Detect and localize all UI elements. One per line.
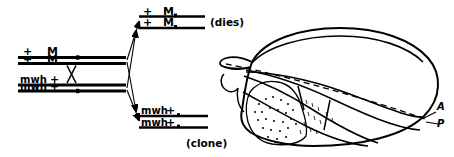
daughter-clone: mwh + mwh + (clone) (139, 104, 227, 149)
daughter-marker-label: M (163, 16, 174, 29)
arrow-to-clone (127, 62, 136, 111)
centromere-dot (76, 89, 79, 93)
segregation-arrows (127, 22, 139, 120)
vein-L4 (244, 76, 378, 143)
crossover-x-symbol (67, 66, 76, 84)
centromere-dot (177, 113, 180, 117)
centromere-dot (76, 55, 79, 59)
centromere-dot (174, 25, 177, 29)
parent-marker-label: mwh (20, 81, 47, 92)
figure-canvas: + M + M mwh + mwh + (0, 0, 454, 157)
fate-label-clone: (clone) (186, 137, 227, 149)
genetics-wing-figure: + M + M mwh + mwh + (0, 0, 454, 157)
daughter-marker-label: + (166, 116, 175, 129)
drosophila-wing: A P (220, 28, 445, 146)
fate-label-dies: (dies) (210, 16, 244, 28)
daughter-dies: + M + M (dies) (139, 5, 244, 30)
daughter-marker-label: + (143, 16, 152, 29)
wing-base-notch (221, 74, 238, 92)
daughter-marker-label: mwh (141, 117, 168, 128)
parent-marker-label: + (50, 80, 59, 93)
label-posterior: P (437, 118, 445, 129)
clone-region-outline (246, 81, 306, 144)
M-bearing-homolog (18, 55, 126, 63)
arrow-to-dies (127, 22, 139, 60)
parent-marker-label: M (47, 53, 58, 66)
centromere-dot (177, 125, 180, 129)
daughter-marker-label: mwh (141, 105, 168, 116)
arrow-to-dies (127, 31, 136, 88)
label-anterior: A (436, 101, 445, 112)
parent-chromosomes: + M + M mwh + mwh + (18, 45, 126, 93)
centromere-dot (174, 14, 177, 18)
parent-marker-label: + (23, 53, 32, 66)
vein-L2 (246, 72, 424, 117)
